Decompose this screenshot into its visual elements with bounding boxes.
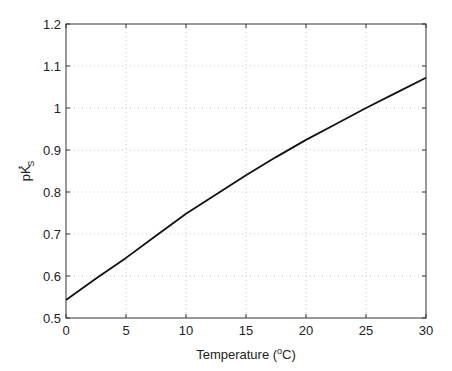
y-tick-label: 0.9 [43,143,61,158]
x-tick-label: 5 [122,323,129,338]
x-tick-label: 20 [299,323,313,338]
x-tick-label: 25 [359,323,373,338]
y-tick-label: 0.7 [43,227,61,242]
x-tick-label: 30 [419,323,433,338]
y-tick-label: 0.8 [43,185,61,200]
axis-ticks: 0510152025300.50.60.70.80.911.11.2 [43,17,433,338]
y-tick-label: 1.1 [43,59,61,74]
x-tick-label: 15 [239,323,253,338]
y-tick-label: 1 [54,101,61,116]
y-axis-label: pK*S [16,161,36,181]
x-axis-label: Temperature (oC) [196,346,296,362]
y-tick-label: 0.6 [43,269,61,284]
grid-lines [66,24,426,318]
y-tick-label: 0.5 [43,311,61,326]
x-tick-label: 0 [62,323,69,338]
y-tick-label: 1.2 [43,17,61,32]
line-chart: 0510152025300.50.60.70.80.911.11.2 Tempe… [0,0,452,371]
x-tick-label: 10 [179,323,193,338]
